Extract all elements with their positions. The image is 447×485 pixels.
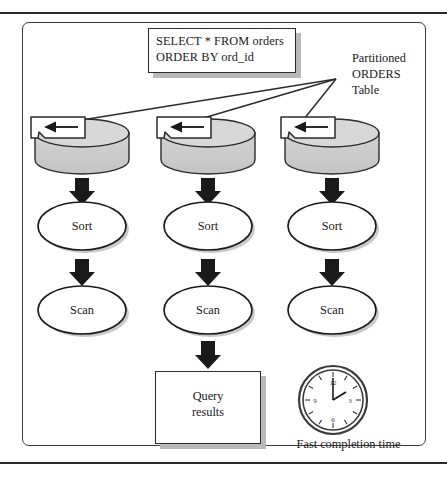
sort-label-3: Sort bbox=[292, 219, 372, 234]
scan-label-1: Scan bbox=[42, 303, 122, 318]
top-divider-rule bbox=[0, 12, 447, 14]
query-line-1: SELECT * FROM orders bbox=[156, 34, 284, 48]
figure-parallel-query-diagram: 12 3 6 9 SELECT * FROM ordersORDER BY or… bbox=[0, 0, 447, 485]
query-line-2: ORDER BY ord_id bbox=[156, 50, 254, 64]
scan-label-3: Scan bbox=[292, 303, 372, 318]
query-text: SELECT * FROM ordersORDER BY ord_id bbox=[156, 33, 284, 66]
scan-label-2: Scan bbox=[168, 303, 248, 318]
result-line-1: Query bbox=[193, 389, 224, 403]
sort-label-2: Sort bbox=[168, 219, 248, 234]
partitioned-orders-table-label: PartitionedORDERSTable bbox=[352, 50, 406, 99]
clock-caption: Fast completion time bbox=[271, 437, 426, 452]
sort-label-1: Sort bbox=[42, 219, 122, 234]
annotation-line-2: ORDERS bbox=[352, 67, 401, 81]
annotation-line-1: Partitioned bbox=[352, 51, 406, 65]
result-text: Queryresults bbox=[155, 388, 261, 420]
annotation-line-3: Table bbox=[352, 83, 379, 97]
result-line-2: results bbox=[192, 405, 224, 419]
bottom-divider-rule bbox=[0, 462, 447, 464]
